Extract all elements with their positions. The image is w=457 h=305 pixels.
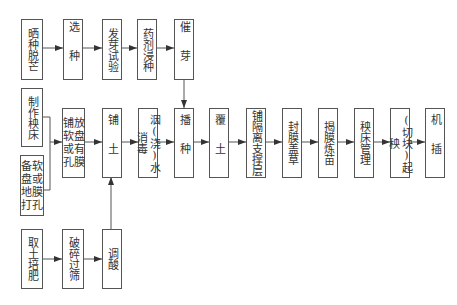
node-tiaosuan: 调酸 xyxy=(102,229,122,289)
node-qutu-peifei: 取土培肥 xyxy=(21,229,43,289)
node-label: 备软盘或地膜打孔 xyxy=(20,160,44,212)
node-xuanzhong: 选种 xyxy=(63,19,83,80)
node-qiekuai-qiyang: (切块)起秧 xyxy=(390,108,410,178)
node-label: 洇(浇)水消毒 xyxy=(135,109,161,177)
node-label: 取土培肥 xyxy=(26,237,39,281)
node-zhizuo-yangchuang: 制作秧床 xyxy=(21,88,43,147)
node-label: 药剂浸种 xyxy=(141,28,154,72)
node-label: 覆土 xyxy=(213,114,226,172)
node-label: 催芽 xyxy=(178,21,191,79)
node-label: 铺放软盘或有孔膜 xyxy=(62,117,86,169)
node-pufang-ruanpan: 铺放软盘或有孔膜 xyxy=(62,108,85,178)
node-label: 秧床管理 xyxy=(358,121,371,165)
node-jicha: 机插 xyxy=(425,108,445,178)
node-label: (切块)起秧 xyxy=(387,109,413,177)
node-posui-guoshai: 破碎过筛 xyxy=(62,229,84,289)
node-label: 揭膜炼苗 xyxy=(322,121,335,165)
node-faya-shiyan: 发芽试验 xyxy=(102,19,122,80)
node-label: 发芽试验 xyxy=(106,28,119,72)
node-futu: 覆土 xyxy=(209,108,229,178)
node-jiemo-lianmiao: 揭膜炼苗 xyxy=(318,108,338,178)
node-label: 晒种脱芒 xyxy=(26,28,39,72)
node-label: 破碎过筛 xyxy=(67,237,80,281)
node-cuiya: 催芽 xyxy=(174,19,194,80)
node-label: 播种 xyxy=(178,114,191,172)
node-putu: 铺土 xyxy=(102,108,122,178)
node-fengmo-gaicao: 封膜盖草 xyxy=(282,108,302,178)
node-yangchuang-guanli: 秧床管理 xyxy=(354,108,374,178)
node-label: 铺隔离支撑层 xyxy=(250,110,263,176)
node-bei-ruanpan: 备软盘或地膜打孔 xyxy=(20,155,44,216)
node-label: 调酸 xyxy=(106,248,119,270)
node-yaoji-jinzhong: 药剂浸种 xyxy=(137,19,157,80)
node-shaizhong-tuomang: 晒种脱芒 xyxy=(21,19,43,80)
node-label: 铺土 xyxy=(106,114,119,172)
node-label: 封膜盖草 xyxy=(286,121,299,165)
node-label: 选种 xyxy=(67,21,80,79)
node-label: 机插 xyxy=(429,114,442,172)
node-pu-geli-zhichengceng: 铺隔离支撑层 xyxy=(246,108,266,178)
node-yinjiaoshui-xiaodu: 洇(浇)水消毒 xyxy=(138,108,158,178)
node-bozhong: 播种 xyxy=(174,108,194,178)
node-label: 制作秧床 xyxy=(26,96,39,140)
